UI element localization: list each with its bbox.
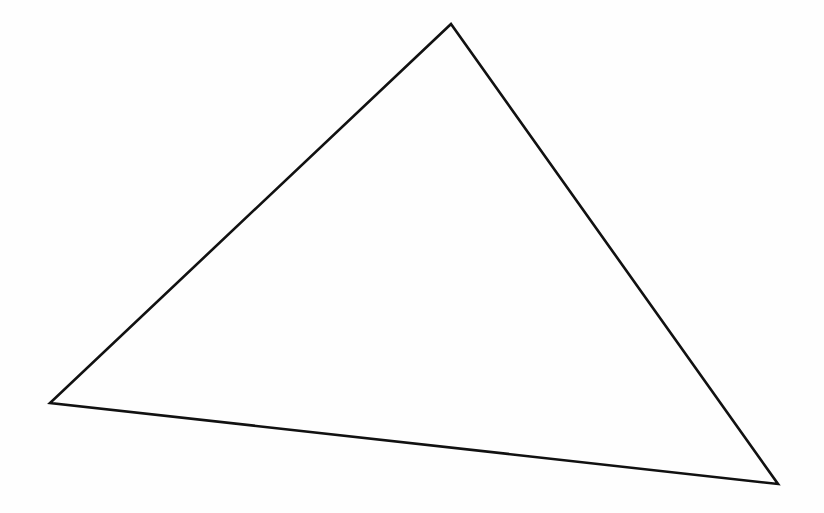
- triangle-shape: [50, 24, 778, 484]
- drawing-canvas: [0, 0, 824, 513]
- triangle-diagram: [0, 0, 824, 513]
